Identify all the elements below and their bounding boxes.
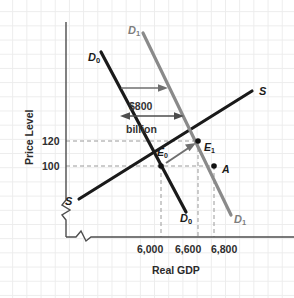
x-tick-label-6000: 6,000 bbox=[137, 244, 163, 255]
x-tick-label-6600: 6,600 bbox=[175, 244, 201, 255]
curve-label-d0-bottom: D0 bbox=[180, 213, 192, 224]
point-label-a: A bbox=[222, 164, 230, 175]
guide-lines bbox=[66, 141, 215, 237]
point-marker-e1 bbox=[195, 138, 201, 144]
y-axis-title: Price Level bbox=[24, 110, 35, 165]
equilibrium-move-arrow bbox=[166, 143, 196, 163]
y-tick-label-100: 100 bbox=[42, 161, 60, 172]
curve-label-d1-bottom: D1 bbox=[234, 214, 246, 225]
curve-label-s-upper: S bbox=[259, 86, 266, 97]
y-tick-label-120: 120 bbox=[42, 136, 60, 147]
curve-label-d0-top: D0 bbox=[88, 52, 100, 63]
point-marker-a bbox=[211, 163, 217, 169]
supply-curve bbox=[79, 91, 252, 199]
point-label-e0: E0 bbox=[157, 147, 168, 158]
point-label-e1: E1 bbox=[204, 142, 215, 153]
ad-as-chart-figure: Price Level Real GDP 120 100 6,000 6,600… bbox=[0, 0, 294, 298]
shift-unit-label: billion bbox=[126, 124, 157, 135]
demand-shift-arrow bbox=[121, 84, 168, 92]
curve-label-s-lower: S bbox=[65, 196, 72, 207]
point-marker-e0 bbox=[158, 163, 164, 169]
x-axis-line bbox=[66, 231, 294, 241]
shift-magnitude-arrow bbox=[120, 112, 184, 120]
x-tick-label-6800: 6,800 bbox=[211, 244, 237, 255]
x-axis-title: Real GDP bbox=[152, 265, 200, 276]
shift-amount-label: $800 bbox=[129, 101, 152, 112]
curve-label-d1-top: D1 bbox=[128, 25, 140, 36]
